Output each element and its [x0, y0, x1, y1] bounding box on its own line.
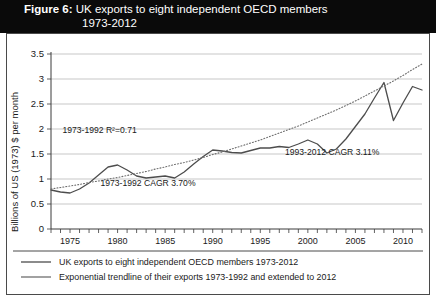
y-tick-label: 2.5	[31, 98, 44, 109]
figure-title-line-1: Figure 6: UK exports to eight independen…	[24, 3, 328, 15]
y-tick-label: 0	[39, 223, 44, 234]
x-tick-label: 1990	[203, 236, 223, 246]
chart-card: 00.511.522.533.5 19751980198519901995200…	[6, 33, 430, 295]
figure-title-text: UK exports to eight independent OECD mem…	[76, 3, 328, 15]
x-tick-label: 1985	[155, 236, 175, 246]
x-axis-tick-labels: 19751980198519901995200020052010	[60, 236, 413, 246]
x-tick-label: 1980	[108, 236, 128, 246]
y-tick-label: 2	[39, 123, 44, 134]
y-tick-label: 3	[39, 73, 44, 84]
x-tick-label: 1995	[250, 236, 270, 246]
chart-annotations: 1973-1992 R²=0.711973-1992 CAGR 3.70%199…	[62, 125, 379, 189]
chart-legend: UK exports to eight independent OECD mem…	[13, 251, 423, 282]
y-axis-title: Billions of US (1973) $ per month	[9, 92, 20, 232]
y-tick-label: 1.5	[31, 148, 44, 159]
x-tick-label: 2000	[298, 236, 318, 246]
legend-label: UK exports to eight independent OECD mem…	[59, 257, 298, 267]
figure-title-line-2: 1973-2012	[82, 17, 137, 29]
legend-label: Exponential trendline of their exports 1…	[59, 272, 336, 282]
y-axis-ticks	[47, 54, 51, 229]
annotation-cagr-late: 1993-2012 CAGR 3.11%	[285, 147, 380, 157]
y-tick-label: 3.5	[31, 48, 44, 59]
x-axis-ticks	[51, 229, 422, 233]
y-tick-label: 1	[39, 173, 44, 184]
x-tick-label: 2010	[393, 236, 413, 246]
x-tick-label: 2005	[345, 236, 365, 246]
annotation-cagr-early: 1973-1992 CAGR 3.70%	[100, 178, 195, 188]
axis-lines	[51, 52, 422, 229]
y-axis-tick-labels: 00.511.522.533.5	[31, 48, 44, 234]
figure-6-container: Figure 6: UK exports to eight independen…	[0, 0, 436, 300]
line-chart: 00.511.522.533.5 19751980198519901995200…	[7, 34, 429, 294]
exports-series	[51, 83, 422, 194]
figure-title-band: Figure 6: UK exports to eight independen…	[0, 0, 436, 33]
annotation-r-squared: 1973-1992 R²=0.71	[62, 125, 137, 135]
x-tick-label: 1975	[60, 236, 80, 246]
figure-number-label: Figure 6:	[24, 3, 73, 15]
y-tick-label: 0.5	[31, 198, 44, 209]
